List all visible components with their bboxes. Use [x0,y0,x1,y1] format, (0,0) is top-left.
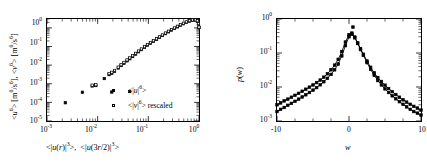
left-x-axis-label: <|u(r)|3>, <|u(3r/2)|3> [46,144,119,152]
figure-root: <u6> [m6/s6], <v6> [m6/s6] 100 10-1 10-2… [0,0,427,164]
right-xtick-0: 0 [335,126,363,134]
right-xtick-10: 10 [408,126,427,134]
right-xtick-neg10: -10 [262,126,290,134]
left-plot-frame [46,18,200,122]
right-ytick-1e-2: 10-2 [238,82,272,90]
legend-marker-v6 [112,104,115,107]
right-ytick-1e-1: 10-1 [238,48,272,56]
left-ytick-1e-5: 10-5 [8,117,42,125]
legend-marker-u6 [112,89,115,92]
left-plot-canvas [47,19,199,121]
panel-pdf: p(w) 100 10-1 10-2 10-3 -10 0 10 w [214,0,427,164]
left-ytick-1e0: 100 [8,19,42,27]
left-ytick-1e-2: 10-2 [8,59,42,67]
left-xtick-1e0: 100 [180,126,208,134]
left-xtick-1e-1: 10-1 [128,126,156,134]
legend-label-v6: <|v|6> rescaled [128,102,173,110]
left-xtick-1e-2: 10-2 [77,126,105,134]
legend-label-u6: <|u|6> [128,87,146,95]
panel-moments-scaling: <u6> [m6/s6], <v6> [m6/s6] 100 10-1 10-2… [0,0,214,164]
left-ytick-1e-3: 10-3 [8,79,42,87]
left-ytick-1e-4: 10-4 [8,99,42,107]
right-ytick-1e-3: 10-3 [238,116,272,124]
right-plot-frame [276,18,422,122]
right-plot-canvas [277,19,421,121]
left-xtick-1e-3: 10-3 [32,126,60,134]
right-x-axis-label: w [345,144,350,152]
right-ytick-1e0: 100 [238,14,272,22]
left-ytick-1e-1: 10-1 [8,39,42,47]
right-y-axis-label: p(w) [236,67,244,82]
